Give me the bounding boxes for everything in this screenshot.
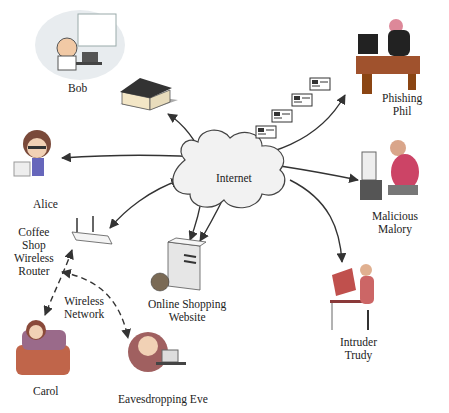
intruder-trudy-label: Intruder Trudy: [340, 336, 377, 362]
alice-label: Alice: [33, 198, 58, 211]
coffee-shop-router-label: Coffee Shop Wireless Router: [14, 226, 54, 278]
wireless-network-line-2: Network: [64, 308, 104, 321]
bob-illustration: [35, 10, 125, 80]
router-label-line-4: Router: [14, 265, 54, 278]
phishing-phil-illustration: [356, 19, 420, 94]
internet-cloud: [173, 130, 285, 208]
trudy-label-line-1: Intruder: [340, 336, 377, 349]
edge-internet-router: [110, 180, 180, 228]
carol-label: Carol: [33, 385, 59, 398]
online-shopping-line-1: Online Shopping: [148, 298, 226, 311]
server-illustration: [151, 238, 206, 291]
router-label-line-3: Wireless: [14, 252, 54, 265]
malicious-malory-label: Malicious Malory: [372, 210, 418, 236]
internet-label: Internet: [216, 172, 252, 185]
router-label-line-1: Coffee: [14, 226, 54, 239]
intruder-trudy-illustration: [330, 264, 374, 330]
online-shopping-label: Online Shopping Website: [148, 298, 226, 324]
wireless-router-illustration: [72, 216, 112, 244]
malory-label-line-1: Malicious: [372, 210, 418, 223]
trudy-label-line-2: Trudy: [340, 349, 377, 362]
eavesdropping-eve-illustration: [128, 332, 186, 372]
phishing-phil-label: Phishing Phil: [382, 92, 422, 118]
carol-illustration: [16, 320, 70, 375]
wireless-network-label: Wireless Network: [64, 295, 104, 321]
online-shopping-line-2: Website: [148, 311, 226, 324]
eavesdropping-eve-label: Eavesdropping Eve: [118, 393, 208, 406]
alice-illustration: [14, 130, 51, 176]
malory-label-line-2: Malory: [372, 223, 418, 236]
wireless-network-line-1: Wireless: [64, 295, 104, 308]
edge-internet-trudy: [290, 180, 342, 262]
phishing-phil-label-line-2: Phil: [382, 105, 422, 118]
house-illustration: [120, 78, 178, 110]
malicious-malory-illustration: [360, 140, 419, 200]
bob-label: Bob: [68, 82, 87, 95]
router-label-line-2: Shop: [14, 239, 54, 252]
internet-network-diagram: [0, 0, 449, 413]
phishing-phil-label-line-1: Phishing: [382, 92, 422, 105]
email-envelopes: [256, 78, 330, 138]
